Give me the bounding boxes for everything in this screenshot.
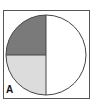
- figure-label: A: [6, 85, 13, 95]
- pie-diagram: [0, 0, 94, 105]
- right-half: [46, 15, 86, 95]
- top-left-quarter: [6, 15, 46, 55]
